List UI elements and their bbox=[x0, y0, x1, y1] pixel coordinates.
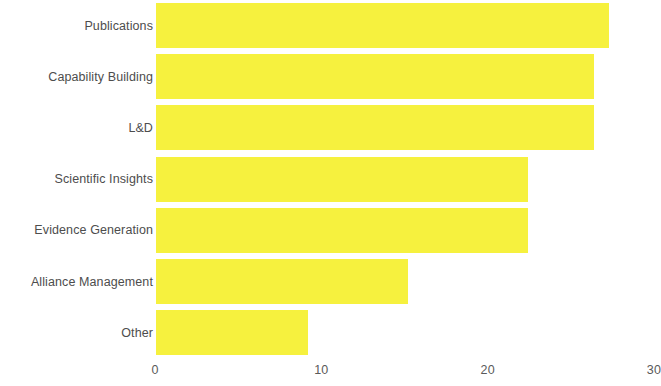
bar-alliance-management[interactable] bbox=[156, 259, 408, 304]
category-label-l-d: L&D bbox=[0, 122, 153, 135]
bar-l-d[interactable] bbox=[156, 105, 594, 150]
bar-row: L&D bbox=[0, 105, 661, 150]
bar-other[interactable] bbox=[156, 310, 308, 355]
category-label-scientific-insights: Scientific Insights bbox=[0, 173, 153, 186]
bar-evidence-generation[interactable] bbox=[156, 208, 528, 253]
x-tick-label-10: 10 bbox=[314, 364, 328, 377]
bar-row: Evidence Generation bbox=[0, 208, 661, 253]
category-label-evidence-generation: Evidence Generation bbox=[0, 224, 153, 237]
category-label-capability-building: Capability Building bbox=[0, 71, 153, 84]
x-axis: 0102030 bbox=[0, 358, 661, 386]
bar-row: Publications bbox=[0, 3, 661, 48]
bar-capability-building[interactable] bbox=[156, 54, 594, 99]
bar-publications[interactable] bbox=[156, 3, 609, 48]
x-tick-label-30: 30 bbox=[647, 364, 661, 377]
x-tick-label-20: 20 bbox=[481, 364, 495, 377]
bar-row: Alliance Management bbox=[0, 259, 661, 304]
bar-row: Capability Building bbox=[0, 54, 661, 99]
plot-area: PublicationsCapability BuildingL&DScient… bbox=[0, 0, 661, 358]
category-label-other: Other bbox=[0, 327, 153, 340]
bar-row: Scientific Insights bbox=[0, 157, 661, 202]
category-label-publications: Publications bbox=[0, 20, 153, 33]
bar-scientific-insights[interactable] bbox=[156, 157, 528, 202]
bar-row: Other bbox=[0, 310, 661, 355]
bar-chart: PublicationsCapability BuildingL&DScient… bbox=[0, 0, 661, 386]
category-label-alliance-management: Alliance Management bbox=[0, 276, 153, 289]
x-tick-label-0: 0 bbox=[151, 364, 158, 377]
